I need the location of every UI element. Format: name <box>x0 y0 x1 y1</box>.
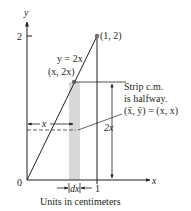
shaded-strip <box>69 82 80 180</box>
origin-label: 0 <box>17 177 22 188</box>
caption: Units in centimeters <box>40 196 121 207</box>
x-axis-label: x <box>151 175 157 186</box>
height-label: 2x <box>104 122 114 133</box>
triangle-strip-diagram: y x 2 0 1 y = 2x (x, 2x) (1, 2) x 2x dx … <box>0 0 191 211</box>
x-tick-label: 1 <box>95 183 100 194</box>
y-axis-label: y <box>23 7 29 18</box>
endpoint-label: (1, 2) <box>100 30 122 42</box>
strip-point-label: (x, 2x) <box>48 66 75 78</box>
endpoint-dot <box>95 34 99 38</box>
note-line-2: is halfway. <box>124 93 167 104</box>
equation-label: y = 2x <box>57 53 83 64</box>
note-line-1: Strip c.m. <box>124 81 163 92</box>
note-line-3: (x̄, ȳ) = (x, x) <box>124 105 178 117</box>
distance-x-label: x <box>41 118 47 129</box>
dx-label: dx <box>70 183 80 194</box>
callout-line <box>78 114 122 130</box>
y-tick-label: 2 <box>17 31 22 42</box>
